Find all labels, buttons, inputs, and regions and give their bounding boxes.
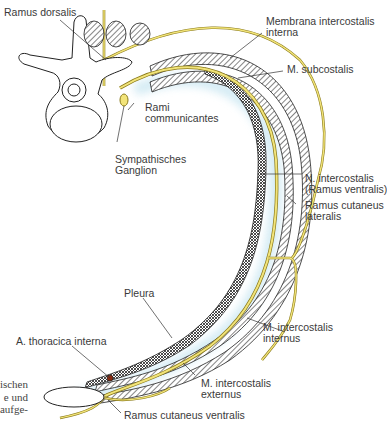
label-ramus-cutaneus-ventralis: Ramus cutaneus ventralis [124, 410, 245, 421]
rib-heads [84, 21, 150, 47]
label-membrana-intercostalis-interna: Membrana intercostalis interna [266, 16, 375, 38]
label-m-intercostalis-internus: M. intercostalis internus [263, 322, 333, 344]
label-ramus-cutaneus-lateralis: Ramus cutaneus lateralis [305, 200, 384, 222]
sternum [44, 387, 104, 407]
label-m-subcostalis: M. subcostalis [287, 64, 354, 75]
label-a-thoracica-interna: A. thoracica interna [16, 336, 106, 347]
label-pleura: Pleura [124, 288, 154, 299]
label-rami-communicantes: Rami communicantes [145, 102, 219, 124]
margin-text-fragment: ischen e und aufge- [0, 378, 28, 416]
label-ramus-dorsalis: Ramus dorsalis [4, 7, 76, 18]
label-m-intercostalis-externus: M. intercostalis externus [201, 378, 271, 400]
label-sympathisches-ganglion: Sympathisches Ganglion [115, 154, 186, 176]
label-n-intercostalis: N. intercostalis (Ramus ventralis) [305, 173, 387, 195]
